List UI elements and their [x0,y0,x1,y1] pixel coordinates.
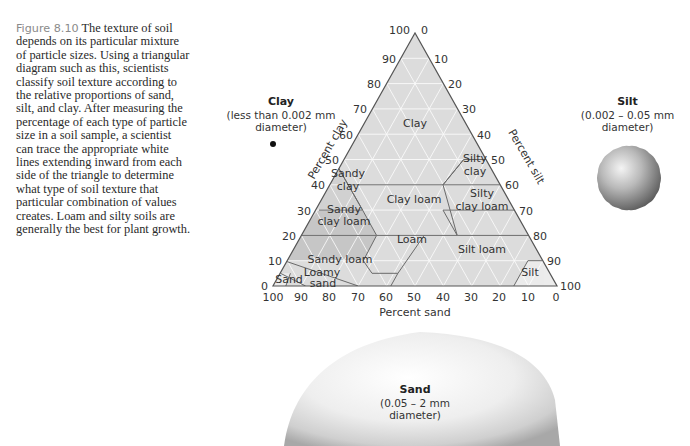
region-clay-loam: Clay loam [387,193,442,206]
clay-tick: 100 [389,24,410,37]
region-silt: Silt [521,266,539,279]
region-silty-clay-line2: clay [464,165,487,178]
silt-tick: 80 [533,230,547,243]
sand-tick: 30 [464,291,478,304]
sand-tick: 0 [553,291,560,304]
sand-tick: 60 [379,291,393,304]
sand-size-2: diameter) [360,409,470,422]
clay-tick: 40 [311,179,325,192]
clay-particle-icon [270,141,276,147]
region-loamy-sand-line2: sand [310,277,336,290]
clay-tick: 30 [297,205,311,218]
sand-tick: 10 [521,291,535,304]
sand-tick: 50 [407,291,421,304]
silt-axis-title: Percent silt [505,127,547,187]
sand-tick: 70 [351,291,365,304]
silt-tick: 20 [448,78,462,91]
region-silty-clay-loam-line2: clay loam [455,200,508,213]
sand-tick: 80 [322,291,336,304]
sand-size: (0.05 – 2 mm [360,397,470,410]
soil-texture-diagram: Clay Silty clay Sandy clay Clay loam Sil… [0,0,690,446]
region-sandy-loam: Sandy loam [308,253,373,266]
clay-tick: 70 [353,103,367,116]
sand-particle-label: Sand (0.05 – 2 mm diameter) [360,384,470,422]
sand-tick: 20 [492,291,506,304]
silt-tick: 100 [560,280,581,293]
region-silt-loam: Silt loam [458,243,506,256]
sand-tick: 100 [263,291,284,304]
region-sand: Sand [275,273,303,286]
clay-tick: 80 [367,78,381,91]
silt-tick: 50 [491,154,505,167]
region-silty-clay-loam-line1: Silty [470,187,494,200]
silt-tick: 40 [477,129,491,142]
silt-tick: 60 [505,179,519,192]
region-silty-clay-line1: Silty [463,152,487,165]
region-loam: Loam [397,233,427,246]
region-clay: Clay [403,117,427,130]
silt-tick: 10 [434,53,448,66]
sand-name: Sand [360,384,470,397]
silt-tick: 0 [421,24,428,37]
clay-tick: 90 [382,53,396,66]
silt-tick: 30 [462,103,476,116]
sand-axis-title: Percent sand [379,306,450,319]
clay-tick: 20 [282,230,296,243]
region-sandy-clay-line1: Sandy [331,167,366,180]
sand-tick: 40 [436,291,450,304]
clay-tick: 10 [268,255,282,268]
silt-tick: 70 [519,205,533,218]
region-sandy-clay-loam-line2: clay loam [317,215,370,228]
silt-tick: 90 [547,255,561,268]
sand-tick: 90 [294,291,308,304]
region-sandy-clay-line2: clay [337,180,360,193]
silt-particle-icon [597,146,661,211]
